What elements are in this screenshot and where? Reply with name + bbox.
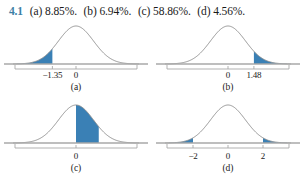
tick-label: −1.35 [42, 70, 62, 80]
answer-d: (d) 4.56%. [197, 5, 245, 17]
tick-label: 0 [74, 151, 78, 161]
tick-label: 1.48 [246, 70, 261, 80]
tick-label: 0 [74, 70, 78, 80]
panel-caption-a: (a) [0, 82, 152, 92]
panel-caption-c: (c) [0, 163, 152, 173]
panel-caption-b: (b) [152, 82, 304, 92]
normal-curve-plot-b [152, 18, 304, 78]
panel-d: −202 (d) [152, 97, 304, 180]
exercise-number: 4.1 [9, 5, 23, 17]
panel-caption-d: (d) [152, 163, 304, 173]
figure-grid: −1.350 (a) 01.48 (b) 0 (c) −202 (d) [0, 18, 305, 184]
tick-label: 2 [261, 151, 265, 161]
normal-curve-plot-a [0, 18, 152, 78]
tick-label: −2 [188, 151, 197, 161]
normal-curve-plot-d [152, 97, 304, 157]
answer-a: (a) 8.85%. [30, 5, 77, 17]
tick-label: 0 [226, 151, 230, 161]
panel-b: 01.48 (b) [152, 18, 304, 101]
tick-label: 0 [226, 70, 230, 80]
panel-a: −1.350 (a) [0, 18, 152, 101]
answer-b: (b) 6.94%. [84, 5, 132, 17]
answer-c: (c) 58.86%. [138, 5, 191, 17]
normal-curve-plot-c [0, 97, 152, 157]
panel-c: 0 (c) [0, 97, 152, 180]
